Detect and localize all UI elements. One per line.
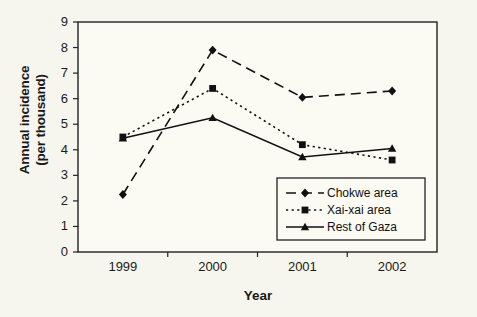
y-axis-title-line-1: Annual incidence [17, 66, 32, 175]
y-tick-label: 0 [44, 244, 68, 259]
data-point-square [389, 157, 396, 164]
legend-label: Xai-xai area [327, 203, 391, 217]
y-tick-label: 1 [44, 218, 68, 233]
y-tick-label: 2 [44, 193, 68, 208]
data-point-square [209, 85, 216, 92]
y-tick-label: 4 [44, 142, 68, 157]
y-tick-label: 3 [44, 167, 68, 182]
legend-label: Rest of Gaza [327, 220, 397, 234]
chart-figure: Annual incidence (per thousand) 01234567… [0, 0, 477, 317]
x-tick-label: 2002 [357, 259, 427, 274]
x-tick-label: 2000 [178, 259, 248, 274]
y-tick-label: 5 [44, 116, 68, 131]
y-tick-label: 7 [44, 65, 68, 80]
x-axis-title: Year [78, 288, 438, 303]
y-tick-label: 6 [44, 91, 68, 106]
x-tick-label: 2001 [267, 259, 337, 274]
y-tick-label: 9 [44, 14, 68, 29]
legend: Chokwe areaXai-xai areaRest of Gaza [277, 178, 425, 240]
x-tick-label: 1999 [88, 259, 158, 274]
y-tick-label: 8 [44, 40, 68, 55]
data-point-square [299, 141, 306, 148]
legend-label: Chokwe area [327, 186, 398, 200]
legend-marker-square [302, 207, 309, 214]
